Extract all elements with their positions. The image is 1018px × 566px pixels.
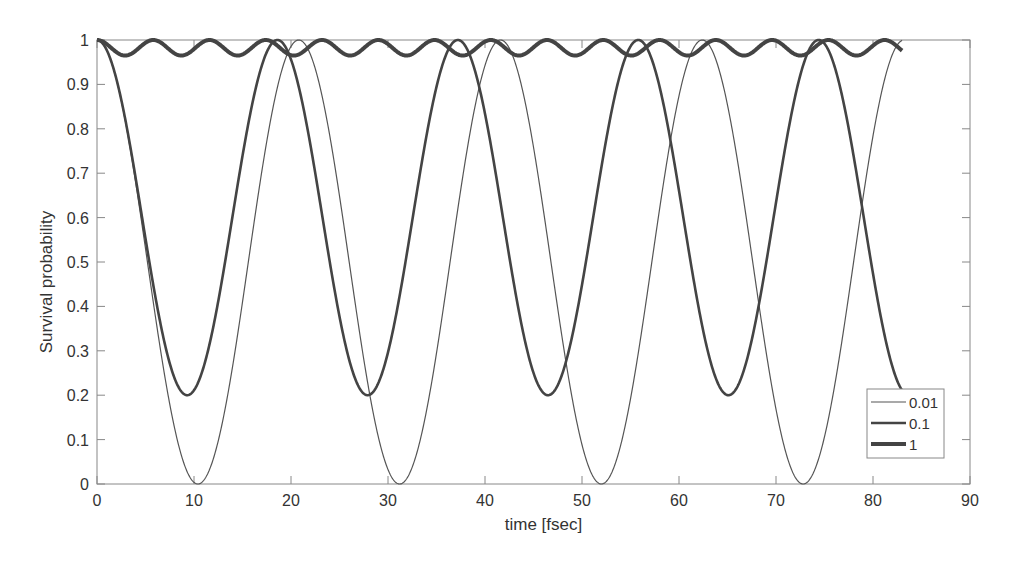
legend-label: 0.01 — [909, 394, 938, 411]
survival-probability-chart: 0102030405060708090 00.10.20.30.40.50.60… — [0, 0, 1018, 566]
x-tick-label: 30 — [379, 492, 397, 509]
y-tick-label: 0.9 — [67, 76, 89, 93]
y-tick-label: 0.3 — [67, 343, 89, 360]
y-tick-label: 1 — [80, 32, 89, 49]
y-tick-label: 0.5 — [67, 254, 89, 271]
axes-box — [97, 40, 970, 484]
curve-0-01 — [97, 40, 902, 484]
x-tick-label: 40 — [476, 492, 494, 509]
y-axis-ticks: 00.10.20.30.40.50.60.70.80.91 — [67, 32, 970, 493]
x-tick-label: 60 — [670, 492, 688, 509]
legend: 0.010.11 — [867, 389, 944, 458]
y-axis-label: Survival probability — [37, 210, 56, 353]
x-axis-label: time [fsec] — [505, 515, 582, 534]
legend-label: 1 — [909, 436, 917, 453]
plot-area: 0102030405060708090 00.10.20.30.40.50.60… — [67, 32, 979, 509]
x-tick-label: 70 — [767, 492, 785, 509]
x-tick-label: 10 — [185, 492, 203, 509]
y-tick-label: 0.1 — [67, 432, 89, 449]
x-tick-label: 0 — [93, 492, 102, 509]
y-tick-label: 0.7 — [67, 165, 89, 182]
x-tick-label: 20 — [282, 492, 300, 509]
x-tick-label: 90 — [961, 492, 979, 509]
y-tick-label: 0 — [80, 476, 89, 493]
y-tick-label: 0.6 — [67, 210, 89, 227]
x-tick-label: 80 — [864, 492, 882, 509]
y-tick-label: 0.8 — [67, 121, 89, 138]
y-tick-label: 0.2 — [67, 387, 89, 404]
curve-0-1 — [97, 40, 902, 395]
y-tick-label: 0.4 — [67, 298, 89, 315]
curves — [97, 40, 902, 484]
curve-1 — [97, 40, 902, 56]
legend-label: 0.1 — [909, 415, 930, 432]
x-tick-label: 50 — [573, 492, 591, 509]
